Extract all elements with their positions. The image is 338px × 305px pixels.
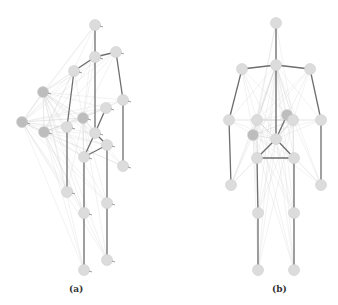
skeleton-b [224,18,327,276]
joint-node-mid_l [248,130,259,141]
joint-node-hip_l [79,152,90,163]
joint-node-r_shoulder [305,64,316,75]
joint-node-l_elbow [62,122,73,133]
joint-node-neck [271,60,282,71]
skeleton-a [17,20,132,276]
joint-node-r_elbow [316,115,327,126]
joint-node-head [271,18,282,29]
joint-node-far_shoulder [38,87,49,98]
joint-node-neck [90,52,101,63]
joint-node-l_knee [253,208,264,219]
joint-node-spine [90,128,101,139]
joint-node-l_foot [79,265,90,276]
joint-node-hip_l [252,153,263,164]
joint-node-r_shoulder [111,47,122,58]
joint-node-chest_r2 [288,115,299,126]
joint-node-r_foot [102,255,113,266]
joint-node-l_shoulder [237,64,248,75]
joint-node-r_foot [289,265,300,276]
joint-node-hip_r [102,140,113,151]
joint-node-far_elbow [17,117,28,128]
joint-node-r_hand [316,180,327,191]
joint-node-spine [271,134,282,145]
joint-node-r_elbow [118,95,129,106]
joint-node-l_hand [226,180,237,191]
caption-a: (a) [69,284,83,294]
joint-node-l_shoulder [69,66,80,77]
joint-node-l_elbow [224,115,235,126]
skeleton-graph-figure [0,0,338,305]
joint-node-hip_r [289,153,300,164]
joint-node-r_hand [118,161,129,172]
joint-node-chest_r [101,103,112,114]
joint-node-chest_l [78,113,89,124]
joint-node-head [90,20,101,31]
joints [17,20,132,276]
joint-node-far_hand [39,127,50,138]
joint-node-r_knee [289,208,300,219]
joint-node-l_knee [79,208,90,219]
joint-node-l_hand [62,187,73,198]
joint-node-r_knee [102,198,113,209]
caption-b: (b) [272,284,287,294]
joint-node-l_foot [253,265,264,276]
joint-node-chest_l [252,115,263,126]
